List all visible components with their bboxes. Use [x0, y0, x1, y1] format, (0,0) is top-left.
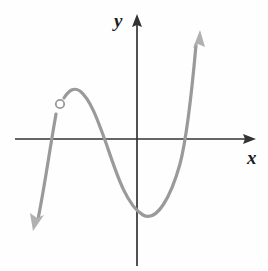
curve-arrow-lower-left: [30, 213, 44, 231]
curve-segment-main: [64, 45, 196, 216]
y-axis-label: y: [114, 11, 122, 30]
x-axis-label: x: [247, 148, 257, 167]
curve-arrow-upper-right: [193, 30, 205, 48]
curve-segment-left: [38, 114, 56, 219]
open-circle-hole: [56, 100, 64, 108]
y-axis: [132, 14, 142, 266]
coordinate-plot: [0, 0, 268, 271]
graph-figure: y x: [0, 0, 268, 271]
function-curve: [30, 30, 205, 231]
